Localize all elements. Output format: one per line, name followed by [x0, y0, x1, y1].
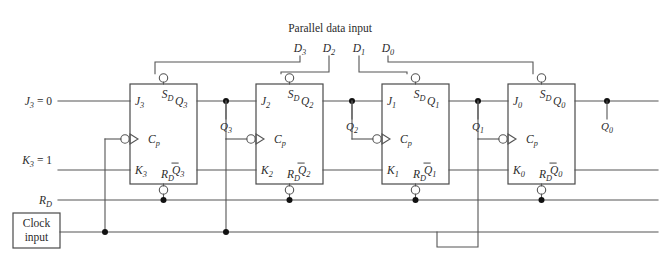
flipflop-2-pin-J: J2 [261, 95, 270, 110]
pin-label-D1-text: D1 [352, 42, 365, 57]
pin-label-D3-text: D3 [293, 42, 306, 57]
flipflop-0-sd-bubble [537, 74, 545, 82]
flipflop-1-rd-bus-dot [413, 197, 419, 203]
flipflop-1-rd-bubble [411, 186, 419, 194]
flipflop-0-cp-triangle [508, 134, 516, 144]
flipflop-2-pin-Q-text: Q2 [301, 95, 313, 110]
flipflop-3-cp-triangle [130, 134, 138, 144]
flipflop-1-cp-triangle [382, 134, 390, 144]
flipflop-3-pin-SD: SD [162, 88, 174, 103]
flipflop-1-pin-J: J1 [387, 95, 396, 110]
flipflop-0-pin-J: J0 [513, 95, 523, 110]
circuit-diagram-figure: Parallel data inputD3D2D1D0J3 = 0K3 = 1R… [0, 0, 661, 256]
flipflop-1-pin-J-text: J1 [387, 95, 396, 110]
flipflop-0-rd-bus-dot [539, 197, 545, 203]
wire-D3-to-SD3 [155, 56, 300, 74]
flipflop-3-pin-Cp: Cp [148, 133, 160, 148]
flipflop-2-rd-bus-dot [287, 197, 293, 203]
flipflop-3-pin-K-text: K3 [134, 164, 147, 179]
flipflop-0-pin-Q-text: Q0 [553, 95, 566, 110]
flipflop-3-pin-J-text: J3 [135, 95, 144, 110]
flipflop-0-pin-SD-text: SD [540, 88, 552, 103]
wire-D0-to-SD0 [388, 56, 533, 74]
schematic-canvas: Parallel data inputD3D2D1D0J3 = 0K3 = 1R… [0, 0, 661, 256]
flipflop-2-rd-bubble [285, 186, 293, 194]
clock-input-line1: Clock [23, 217, 51, 229]
flipflop-1-pin-Q-text: Q1 [427, 95, 439, 110]
flipflop-2-pin-SD-text: SD [288, 88, 300, 103]
flipflop-1-cp-bubble [373, 135, 381, 143]
flipflop-3-pin-Q: Q3 [175, 95, 187, 110]
flipflop-3-pin-SD-text: SD [162, 88, 174, 103]
pin-label-D0-text: D0 [381, 42, 395, 57]
pin-label-D2: D2 [322, 42, 335, 57]
pin-label-D1: D1 [352, 42, 365, 57]
flipflop-2-pin-K: K2 [260, 164, 273, 179]
flipflop-1-sd-bubble [411, 74, 419, 82]
flipflop-1-pin-SD-text: SD [414, 88, 426, 103]
flipflop-1-pin-K: K1 [386, 164, 399, 179]
flipflop-0-pin-SD: SD [540, 88, 552, 103]
flipflop-3-sd-bubble [159, 74, 167, 82]
flipflop-0-pin-Cp: Cp [526, 133, 538, 148]
parallel-data-input-title: Parallel data input [288, 22, 372, 35]
flipflop-0-pin-K: K0 [512, 164, 526, 179]
flipflop-0-pin-Q: Q0 [553, 95, 566, 110]
pin-label-D3: D3 [293, 42, 306, 57]
input-label-J3-input: J3 = 0 [25, 95, 52, 110]
flipflop-3-pin-Q-text: Q3 [175, 95, 187, 110]
clock-dot-node0 [223, 229, 229, 235]
flipflop-1-pin-SD: SD [414, 88, 426, 103]
flipflop-2-pin-Q: Q2 [301, 95, 313, 110]
clock-dot-cp3 [102, 229, 108, 235]
pin-label-D2-text: D2 [322, 42, 335, 57]
pin-label-D0: D0 [381, 42, 395, 57]
wire-D2-to-SD2 [281, 56, 329, 74]
input-label-K3-input-text: K3 = 1 [21, 154, 52, 169]
flipflop-0-cp-bubble [499, 135, 507, 143]
flipflop-2-pin-J-text: J2 [261, 95, 270, 110]
input-label-RD-input: RD [38, 194, 52, 209]
flipflop-3-pin-K: K3 [134, 164, 147, 179]
flipflop-3-pin-J: J3 [135, 95, 144, 110]
wire-D1-to-SD1 [359, 56, 407, 74]
flipflop-2-cp-bubble [247, 135, 255, 143]
flipflop-2-pin-K-text: K2 [260, 164, 273, 179]
flipflop-1-pin-Q: Q1 [427, 95, 439, 110]
input-label-J3-input-text: J3 = 0 [25, 95, 52, 110]
flipflop-1-pin-Cp-text: Cp [400, 133, 412, 148]
flipflop-2-cp-triangle [256, 134, 264, 144]
wire-cp-return-right [437, 139, 478, 247]
clock-input-line2: input [25, 231, 49, 244]
flipflop-1-pin-K-text: K1 [386, 164, 399, 179]
input-label-RD-input-text: RD [38, 194, 52, 209]
flipflop-0-pin-Cp-text: Cp [526, 133, 538, 148]
input-label-K3-input: K3 = 1 [21, 154, 52, 169]
flipflop-3-rd-bus-dot [161, 197, 167, 203]
flipflop-0-pin-K-text: K0 [512, 164, 526, 179]
flipflop-2-pin-Cp-text: Cp [274, 133, 286, 148]
flipflop-3-rd-bubble [159, 186, 167, 194]
node-Q0-label-text: Q0 [601, 120, 613, 135]
flipflop-0-rd-bubble [537, 186, 545, 194]
flipflop-3-cp-bubble [121, 135, 129, 143]
flipflop-0-pin-J-text: J0 [513, 95, 523, 110]
flipflop-2-pin-Cp: Cp [274, 133, 286, 148]
flipflop-3-pin-Cp-text: Cp [148, 133, 160, 148]
flipflop-2-sd-bubble [285, 74, 293, 82]
flipflop-1-pin-Cp: Cp [400, 133, 412, 148]
flipflop-2-pin-SD: SD [288, 88, 300, 103]
node-Q0-label: Q0 [601, 120, 613, 135]
